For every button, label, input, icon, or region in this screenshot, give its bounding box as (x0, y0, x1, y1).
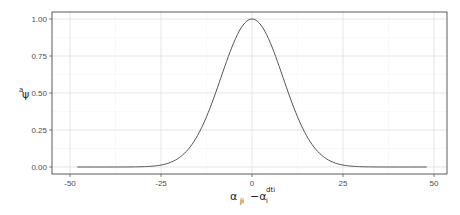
x-title-alpha: α (230, 190, 237, 203)
y-tick-label: 0.50 (31, 89, 47, 98)
y-axis-ticks: 0.000.250.500.751.00 (31, 15, 52, 172)
x-axis-ticks: -50-2502550 (64, 174, 439, 188)
y-tick-label: 1.00 (31, 15, 47, 24)
chart: -50-2502550 0.000.250.500.751.00 ψ a α j… (0, 0, 460, 215)
y-tick-label: 0.00 (31, 163, 47, 172)
x-tick-label: 50 (430, 179, 439, 188)
x-title-sub-ji: ji (239, 197, 244, 205)
x-axis-title: α ji −α dti i (230, 186, 275, 205)
x-tick-label: 25 (339, 179, 348, 188)
x-tick-label: 0 (250, 179, 255, 188)
x-title-sup-dti: dti (266, 186, 275, 194)
x-title-minus-alpha: −α (250, 190, 266, 203)
y-tick-label: 0.25 (31, 126, 47, 135)
x-tick-label: -50 (64, 179, 76, 188)
x-title-sub-i: i (266, 197, 268, 205)
x-tick-label: -25 (155, 179, 167, 188)
y-title-sup: a (19, 86, 23, 94)
y-tick-label: 0.75 (31, 52, 47, 61)
y-axis-title: ψ a (19, 86, 29, 101)
